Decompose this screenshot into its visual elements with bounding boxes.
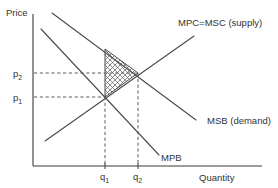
chart-canvas: Price Quantity p2 p1 q1 q2 MPC=MSC (supp… bbox=[0, 0, 278, 188]
curve-supply-mpc-msc bbox=[45, 36, 194, 141]
quantity-tick-q1: q1 bbox=[100, 171, 109, 184]
price-tick-p1: p1 bbox=[13, 92, 22, 105]
curve-label-supply: MPC=MSC (supply) bbox=[178, 17, 262, 28]
price-tick-p2-subscript: 2 bbox=[18, 74, 22, 81]
y-axis-label: Price bbox=[6, 7, 28, 18]
quantity-tick-q2: q2 bbox=[133, 171, 142, 184]
x-axis-label: Quantity bbox=[199, 172, 235, 183]
curve-label-msb: MSB (demand) bbox=[207, 115, 271, 126]
externality-diagram: Price Quantity p2 p1 q1 q2 MPC=MSC (supp… bbox=[0, 0, 278, 188]
quantity-tick-q1-subscript: 1 bbox=[105, 177, 109, 184]
price-tick-p1-subscript: 1 bbox=[18, 98, 22, 105]
curve-mpb bbox=[41, 29, 159, 155]
price-tick-p2: p2 bbox=[13, 68, 22, 81]
quantity-tick-q2-subscript: 2 bbox=[138, 177, 142, 184]
curve-msb-demand bbox=[52, 13, 196, 120]
curve-label-mpb: MPB bbox=[161, 152, 182, 163]
